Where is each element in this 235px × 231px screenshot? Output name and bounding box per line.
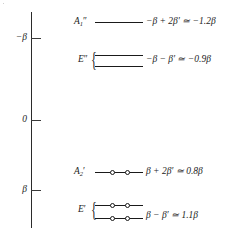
axis-label-zero: 0 [1,115,27,125]
mo-energy-level-diagram: −β 0 β A1″ −β + 2β′ ≃ −1.2β E″ { −β − β′… [0,0,235,231]
term-prime-e-doubleprime: ″ [84,54,88,64]
axis-label-minus-beta: −β [1,33,27,43]
energy-expression-a1-doubleprime: −β + 2β′ ≃ −1.2β [146,17,216,27]
energy-expression-e-doubleprime: −β − β′ ≃ −0.9β [146,55,211,65]
axis-tick-beta [31,190,41,191]
axis-tick-zero [31,120,41,121]
electron-circle [125,203,130,208]
axis-tick-minus-beta [31,38,41,39]
electron-circle [110,216,115,221]
term-label-a2-prime: A2′ [74,167,85,178]
term-prime-e-prime: ′ [84,204,86,214]
term-label-e-prime: E′ [78,205,86,215]
level-line-e-prime-1 [95,205,143,206]
axis-label-beta: β [1,185,27,195]
brace-e-prime: { [91,198,97,220]
level-line-a2-prime [95,172,143,173]
term-prime-a2: ′ [83,166,85,176]
electron-circle [125,170,130,175]
electron-circle [110,203,115,208]
level-line-e-doubleprime-1 [95,55,143,56]
level-line-e-doubleprime-2 [95,66,143,67]
axis-label-beta-wrap: β [0,185,27,196]
level-line-e-prime-2 [95,218,143,219]
energy-expression-a2-prime: β + 2β′ ≃ 0.8β [146,167,203,177]
term-label-a1-doubleprime: A1″ [74,17,87,28]
energy-expression-e-prime: β − β′ ≃ 1.1β [146,211,198,221]
level-line-a1-doubleprime [95,22,143,23]
scan-artifact-speck [3,3,4,4]
term-label-e-doubleprime: E″ [78,55,88,65]
electron-circle [110,170,115,175]
electron-circle [125,216,130,221]
axis-label-minus-beta-wrap: −β [0,33,27,44]
term-prime-a1: ″ [83,16,87,26]
axis-label-zero-wrap: 0 [0,115,27,126]
